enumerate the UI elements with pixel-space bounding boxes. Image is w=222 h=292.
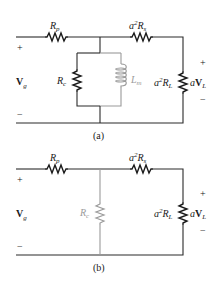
resistor-rl xyxy=(179,71,187,94)
circuit-figure: Rp a2Rs + Vg − Rc Lm a2RL + aVL − (a) Rp… xyxy=(0,0,222,292)
inductor-lm xyxy=(116,64,127,88)
label-rc-b: Rc xyxy=(79,207,90,220)
resistor-rp-b xyxy=(45,165,68,173)
circuit-panel-a: Rp a2Rs + Vg − Rc Lm a2RL + aVL − (a) xyxy=(16,19,206,142)
source-minus-a: − xyxy=(17,109,23,120)
resistor-rs xyxy=(130,33,153,41)
label-rl-b: a2RL xyxy=(154,207,173,221)
caption-b: (b) xyxy=(93,262,105,274)
label-vl-b: aVL xyxy=(190,208,206,221)
label-rs-b: a2Rs xyxy=(129,151,147,165)
load-minus-b: − xyxy=(200,225,206,236)
load-plus-a: + xyxy=(200,57,206,68)
wire-rc-bottom xyxy=(77,92,100,106)
label-rc-a: Rc xyxy=(56,75,67,88)
resistor-rc xyxy=(73,69,81,92)
load-minus-a: − xyxy=(200,94,206,105)
label-vg-b: Vg xyxy=(16,208,27,222)
source-plus-b: + xyxy=(17,174,23,185)
resistor-rs-b xyxy=(130,165,153,173)
resistor-rp xyxy=(45,33,68,41)
circuit-panel-b: Rp a2Rs + Vg − Rc a2RL + aVL − (b) xyxy=(16,151,206,274)
source-minus-b: − xyxy=(17,241,23,252)
label-rp-b: Rp xyxy=(49,152,60,165)
wire-top-right xyxy=(153,37,183,71)
load-plus-b: + xyxy=(200,188,206,199)
label-rs: a2Rs xyxy=(129,19,147,33)
label-rp: Rp xyxy=(49,20,60,33)
resistor-rc-b xyxy=(96,202,104,225)
label-vg-a: Vg xyxy=(16,76,27,90)
resistor-rl-b xyxy=(179,202,187,225)
label-lm: Lm xyxy=(130,74,142,87)
caption-a: (a) xyxy=(93,130,104,142)
wire-lm-bottom xyxy=(100,88,121,106)
source-plus-a: + xyxy=(17,42,23,53)
label-vl-a: aVL xyxy=(190,77,206,90)
label-rl-a: a2RL xyxy=(154,76,173,90)
wire-top-right-b xyxy=(153,169,183,202)
